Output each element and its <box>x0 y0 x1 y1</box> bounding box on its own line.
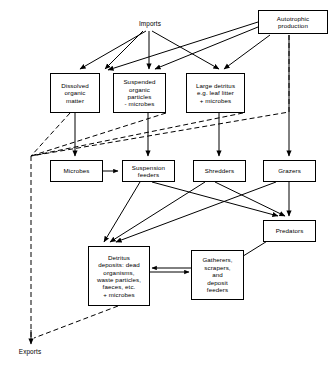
edge-autotrophic-to-large-detritus <box>224 35 270 69</box>
edge-suspension-feeders-to-predators <box>152 182 278 216</box>
node-grazers[interactable]: Grazers <box>263 160 316 182</box>
edge-shredders-to-detritus <box>110 182 205 242</box>
node-large-detritus-label: Large detritus e.g. leaf litter + microb… <box>196 82 235 104</box>
node-suspended-organic-particles[interactable]: Suspended organic particles - microbes <box>113 73 166 113</box>
node-microbes[interactable]: Microbes <box>50 160 103 182</box>
edge-autotrophic-to-sop <box>155 27 258 69</box>
node-dissolved-organic-matter[interactable]: Dissolved organic matter <box>50 73 100 113</box>
node-suspension-feeders[interactable]: Suspension feeders <box>122 160 175 182</box>
node-shredders[interactable]: Shredders <box>193 160 246 182</box>
edge-imports-to-dom-b <box>105 31 143 69</box>
edge-suspension-feeders-to-detritus <box>104 182 140 242</box>
node-large-detritus[interactable]: Large detritus e.g. leaf litter + microb… <box>186 73 245 113</box>
node-autotrophic-production[interactable]: Autotrophic production <box>258 10 328 34</box>
node-autotrophic-production-label: Autotrophic production <box>277 15 309 30</box>
label-imports: Imports <box>120 20 180 28</box>
node-detritus-deposits[interactable]: Detritus deposits: dead organisms, waste… <box>88 246 150 306</box>
edge-sop-dashed-to-junction <box>31 113 166 156</box>
edge-imports-to-dom <box>80 31 146 69</box>
edge-grazers-to-detritus <box>116 182 276 242</box>
node-suspension-feeders-label: Suspension feeders <box>132 164 165 179</box>
node-gatherers-label: Gatherers, scrapers, and deposit feeders <box>202 256 232 293</box>
node-dissolved-organic-matter-label: Dissolved organic matter <box>61 82 89 104</box>
node-shredders-label: Shredders <box>205 167 234 174</box>
node-predators[interactable]: Predators <box>263 220 316 242</box>
diagram-canvas: Autotrophic production Dissolved organic… <box>0 0 334 376</box>
edge-large-detritus-dashed-to-junction <box>31 113 243 156</box>
node-microbes-label: Microbes <box>64 167 90 174</box>
edge-autotrophic-to-dom <box>108 22 258 70</box>
edge-shredders-to-predators <box>215 182 285 216</box>
connector-layer <box>0 0 334 376</box>
node-detritus-deposits-label: Detritus deposits: dead organisms, waste… <box>97 254 141 298</box>
edge-imports-to-large-detritus <box>152 31 219 69</box>
node-grazers-label: Grazers <box>278 167 301 174</box>
node-suspended-organic-particles-label: Suspended organic particles - microbes <box>123 78 155 108</box>
node-predators-label: Predators <box>276 227 304 234</box>
label-exports: Exports <box>2 348 58 356</box>
edge-detritus-dashed-to-exports <box>34 306 118 338</box>
node-gatherers-scrapers-deposit-feeders[interactable]: Gatherers, scrapers, and deposit feeders <box>191 250 244 300</box>
